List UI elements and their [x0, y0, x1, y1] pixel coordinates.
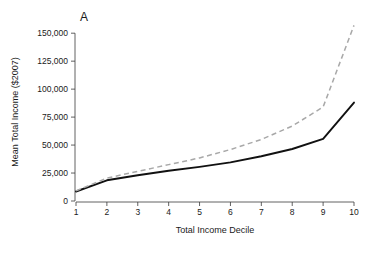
x-tick-label: 5 [197, 207, 202, 217]
y-tick-label: 50,000 [42, 140, 68, 150]
x-tick-label: 8 [290, 207, 295, 217]
y-tick-label: 75,000 [42, 112, 68, 122]
x-tick-label: 6 [228, 207, 233, 217]
panel-label: A [80, 10, 88, 24]
x-tick-label: 1 [74, 207, 79, 217]
x-tick-label: 2 [105, 207, 110, 217]
y-tick-label: 0 [63, 196, 68, 206]
x-tick-label: 10 [349, 207, 359, 217]
y-tick-label: 100,000 [37, 84, 68, 94]
y-tick-label: 25,000 [42, 168, 68, 178]
x-axis-title: Total Income Decile [176, 225, 255, 235]
y-tick-label: 125,000 [37, 56, 68, 66]
y-tick-label: 150,000 [37, 28, 68, 38]
chart-figure: 025,00050,00075,000100,000125,000150,000… [0, 0, 376, 255]
chart-background [0, 0, 376, 255]
x-tick-label: 3 [135, 207, 140, 217]
x-tick-label: 4 [166, 207, 171, 217]
x-tick-label: 9 [321, 207, 326, 217]
x-tick-label: 7 [259, 207, 264, 217]
chart-canvas: 025,00050,00075,000100,000125,000150,000… [0, 0, 376, 255]
y-axis-title: Mean Total Income ($2007) [10, 57, 20, 166]
